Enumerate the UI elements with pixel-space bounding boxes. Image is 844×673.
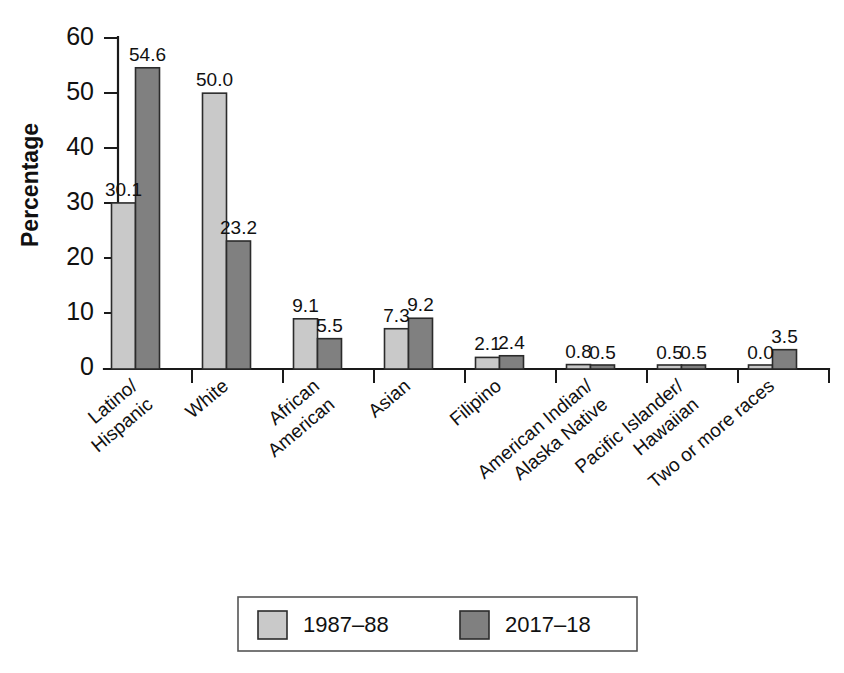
bar [136,68,160,369]
bar-value-label: 0.5 [656,342,682,363]
bar [749,365,773,369]
y-tick-label: 20 [66,242,94,270]
bar-value-label: 7.3 [383,305,409,326]
bar [773,350,797,369]
bar-value-label: 23.2 [220,217,257,238]
legend-label-2017-18: 2017–18 [505,612,591,637]
bar-chart-svg: Percentage 60 50 40 30 20 10 0 [0,0,844,673]
bar-value-label: 0.8 [565,341,591,362]
category-label: White [181,375,232,422]
bar-value-label: 9.1 [292,295,318,316]
y-tick-label: 50 [66,77,94,105]
bar-value-label: 30.1 [105,179,142,200]
x-axis-ticks [192,369,829,383]
bar [476,357,500,369]
bar-value-label: 9.2 [407,294,433,315]
bar [385,329,409,369]
bar [658,365,682,369]
bar [227,241,251,369]
legend-swatch-1987-88 [258,611,287,639]
bar-value-label: 50.0 [196,69,233,90]
bar [500,356,524,369]
bar [591,365,615,369]
category-label-line: Asian [364,375,414,422]
bars-layer [112,68,797,369]
category-label: Latino/Hispanic [72,375,157,457]
category-label: Filipino [445,375,505,430]
bar-value-label: 0.5 [589,342,615,363]
y-tick-label: 30 [66,187,94,215]
legend: 1987–88 2017–18 [238,597,637,651]
y-axis-title: Percentage [17,123,43,247]
bar [682,365,706,369]
category-label: AfricanAmerican [248,375,338,461]
y-tick-label: 60 [66,22,94,50]
bar-value-label: 54.6 [129,44,166,65]
y-tick-label: 40 [66,132,94,160]
bar-value-label: 2.4 [498,332,525,353]
legend-swatch-2017-18 [460,611,489,639]
y-tick-label: 0 [80,352,94,380]
category-label: Asian [364,375,414,422]
legend-label-1987-88: 1987–88 [303,612,389,637]
bar [318,339,342,369]
bar-value-label: 3.5 [771,326,797,347]
y-tick-labels: 60 50 40 30 20 10 0 [66,22,94,380]
y-tick-label: 10 [66,297,94,325]
bar [112,203,136,369]
category-label-line: White [181,375,232,422]
bar [294,319,318,369]
bar-value-label: 0.5 [680,342,706,363]
bar [567,365,591,369]
category-labels-layer: Latino/HispanicWhiteAfricanAmericanAsian… [72,375,778,502]
bar-value-label: 2.1 [474,333,500,354]
chart-figure: Percentage 60 50 40 30 20 10 0 [0,0,844,673]
bar [409,318,433,369]
bar-value-label: 5.5 [316,315,342,336]
category-label-line: Filipino [445,375,505,430]
bar-value-label: 0.0 [747,342,773,363]
